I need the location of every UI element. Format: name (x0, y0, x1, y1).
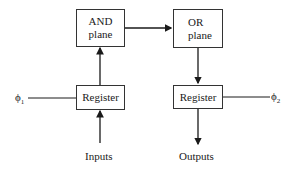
input-register-label: Register (82, 91, 119, 104)
and-plane-label-line1: AND (89, 15, 113, 28)
inputs-label: Inputs (85, 150, 113, 162)
phi1-label: ϕ1 (15, 91, 24, 108)
outputs-label: Outputs (179, 150, 214, 162)
or-plane-label-line1: OR (188, 16, 212, 29)
output-register-label: Register (180, 91, 217, 104)
input-register-block: Register (76, 85, 125, 110)
output-register-block: Register (173, 85, 223, 109)
and-plane-label-line2: plane (89, 28, 113, 41)
connection-lines (0, 0, 298, 169)
and-plane-block: AND plane (76, 9, 125, 47)
or-plane-block: OR plane (173, 9, 223, 48)
or-plane-label-line2: plane (188, 29, 212, 42)
phi2-label: ϕ2 (271, 90, 280, 107)
